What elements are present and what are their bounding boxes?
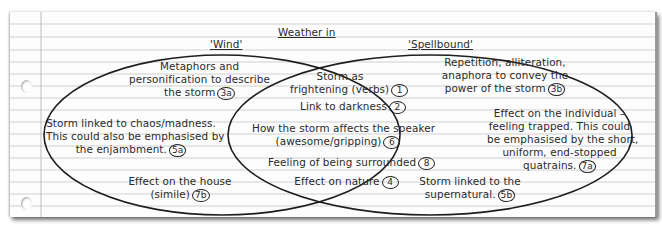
overlap-item-4: Effect on nature4 <box>294 175 399 189</box>
right-item-7a: Effect on the individual – feeling trapp… <box>487 107 632 173</box>
overlap-item-1: Storm as frightening (verbs)1 <box>290 70 390 97</box>
overlap-item-8: Feeling of being surrounded8 <box>268 156 423 170</box>
overlap-item-2: Link to darkness2 <box>300 100 395 114</box>
badge-1: 1 <box>391 84 408 97</box>
right-item-5b: Storm linked to the supernatural.5b <box>415 175 525 202</box>
badge-4: 4 <box>382 176 399 189</box>
badge-5a: 5a <box>169 144 186 157</box>
badge-5b: 5b <box>498 189 516 202</box>
overlap-item-6: How the storm affects the speaker (aweso… <box>252 122 424 149</box>
set-label-right: 'Spellbound' <box>408 38 473 51</box>
badge-2: 2 <box>389 101 406 114</box>
diagram-title: Weather in <box>278 26 336 39</box>
left-item-7b: Effect on the house (simile)7b <box>126 175 234 202</box>
badge-7b: 7b <box>192 189 210 202</box>
right-item-3b: Repetition, alliteration, anaphora to co… <box>435 56 575 96</box>
badge-7a: 7a <box>579 160 596 173</box>
badge-3b: 3b <box>548 83 566 96</box>
left-item-5a: Storm linked to chaos/madness. This coul… <box>46 117 216 157</box>
badge-3a: 3a <box>217 87 234 100</box>
badge-6: 6 <box>383 136 400 149</box>
badge-8: 8 <box>418 157 435 170</box>
left-item-3a: Metaphors and personification to describ… <box>112 60 287 100</box>
set-label-left: 'Wind' <box>210 38 242 51</box>
